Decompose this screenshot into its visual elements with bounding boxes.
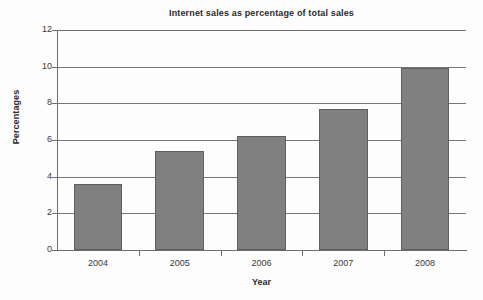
bar — [155, 151, 204, 250]
x-tick-mark — [139, 251, 140, 256]
y-tick-label: 8 — [30, 97, 52, 107]
y-axis-tick-labels: 024681012 — [25, 0, 52, 300]
y-tick-mark — [52, 103, 57, 104]
gridline — [57, 30, 466, 31]
y-tick-label: 2 — [30, 207, 52, 217]
y-tick-mark — [52, 67, 57, 68]
y-tick-mark — [52, 250, 57, 251]
x-tick-label: 2004 — [88, 258, 108, 268]
bar — [401, 68, 450, 250]
y-tick-label: 12 — [30, 24, 52, 34]
chart-title: Internet sales as percentage of total sa… — [57, 8, 466, 18]
x-tick-mark — [302, 251, 303, 256]
plot-area — [57, 30, 466, 250]
y-tick-label: 10 — [30, 61, 52, 71]
bar — [319, 109, 368, 250]
x-tick-label: 2007 — [333, 258, 353, 268]
y-tick-label: 0 — [30, 244, 52, 254]
bar — [74, 184, 123, 250]
x-tick-label: 2008 — [415, 258, 435, 268]
x-axis-line — [57, 250, 467, 251]
bar — [237, 136, 286, 250]
y-tick-label: 4 — [30, 171, 52, 181]
x-axis-label: Year — [57, 277, 466, 287]
x-tick-label: 2006 — [251, 258, 271, 268]
y-axis-label: Percentages — [11, 77, 21, 157]
y-tick-label: 6 — [30, 134, 52, 144]
bar-chart-figure: Internet sales as percentage of total sa… — [0, 0, 483, 300]
y-tick-mark — [52, 213, 57, 214]
x-tick-mark — [384, 251, 385, 256]
y-tick-mark — [52, 177, 57, 178]
y-tick-mark — [52, 30, 57, 31]
y-tick-mark — [52, 140, 57, 141]
x-tick-label: 2005 — [170, 258, 190, 268]
x-tick-mark — [221, 251, 222, 256]
